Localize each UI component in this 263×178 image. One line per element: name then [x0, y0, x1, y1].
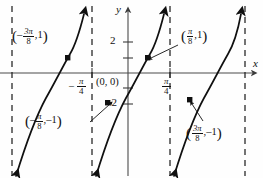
branch-2: [96, 14, 164, 176]
point-label-neg-pi-8: (– π 8 ,–1): [25, 112, 62, 130]
leader-pi-8: [151, 45, 178, 58]
open-paren: (: [186, 125, 191, 141]
fraction-denominator: 8: [187, 36, 193, 46]
point-3pi-8: [187, 97, 192, 102]
fraction-denominator: 8: [192, 133, 203, 143]
fraction-numerator: π: [77, 77, 86, 86]
point-neg-3pi-8: [65, 55, 70, 60]
point-label-pi-8: ( π 8 ,1): [181, 27, 207, 45]
point-pi-8: [145, 55, 150, 60]
graph-figure: y x 2 –2 (0, 0) – π 4 π 4 (– 3π 8 ,1) (–…: [0, 0, 263, 178]
y-coordinate: –1: [206, 126, 217, 137]
fraction-denominator: 8: [36, 121, 42, 131]
fraction-pi-4: π 4: [77, 77, 86, 96]
y-axis-label: y: [116, 4, 121, 15]
fraction: 3π 8: [23, 27, 34, 45]
open-paren: (: [181, 28, 186, 44]
close-paren: ): [57, 113, 62, 129]
fraction-denominator: 4: [77, 86, 86, 96]
fraction: π 8: [36, 112, 42, 130]
point-label-neg-3pi-8: (– 3π 8 ,1): [12, 27, 48, 45]
y-tick-label-neg2: –2: [106, 97, 117, 108]
y-coordinate: –1: [46, 114, 57, 125]
fraction-numerator: π: [36, 112, 42, 121]
fraction: 3π 8: [192, 124, 203, 142]
fraction: π 8: [187, 27, 193, 45]
fraction-numerator: 3π: [192, 124, 203, 133]
minus-sign: –: [30, 114, 35, 125]
fraction-denominator: 4: [162, 86, 171, 96]
y-tick-label-2: 2: [110, 35, 116, 46]
fraction-numerator: π: [162, 77, 171, 86]
origin-label: (0, 0): [96, 77, 119, 88]
close-paren: ): [217, 125, 222, 141]
close-paren: ): [43, 28, 48, 44]
point-label-3pi-8: ( 3π 8 ,–1): [186, 124, 222, 142]
close-paren: ): [202, 28, 207, 44]
fraction-pi-4-pos: π 4: [162, 77, 171, 96]
x-axis-label: x: [253, 58, 258, 69]
fraction-numerator: 3π: [23, 27, 34, 36]
fraction-denominator: 8: [23, 36, 34, 46]
neg-sign: –: [69, 80, 74, 91]
minus-sign: –: [17, 29, 22, 40]
fraction-numerator: π: [187, 27, 193, 36]
